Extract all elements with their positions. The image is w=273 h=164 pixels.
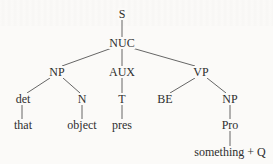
leaf-pres: pres	[111, 119, 133, 131]
node-VP: VP	[192, 66, 209, 78]
edge-NUC-VP	[132, 48, 195, 66]
node-AUX: AUX	[108, 66, 136, 78]
node-T: T	[117, 93, 126, 105]
edge-NP-det	[27, 78, 50, 93]
edge-NP-N	[63, 78, 80, 93]
node-Pro: Pro	[221, 119, 240, 131]
node-NUC: NUC	[108, 37, 135, 49]
node-NP-subject: NP	[48, 66, 65, 78]
tree-edges	[0, 0, 273, 164]
leaf-something-Q: something + Q	[193, 146, 266, 158]
edge-VP-NP	[207, 78, 226, 93]
node-NP-object: NP	[221, 93, 238, 105]
edge-NUC-NP	[62, 48, 112, 66]
node-S: S	[118, 8, 127, 20]
edge-VP-BE	[170, 78, 195, 93]
leaf-that: that	[13, 119, 33, 131]
node-BE: BE	[156, 93, 173, 105]
leaf-object: object	[66, 119, 97, 131]
node-N: N	[77, 93, 88, 105]
node-det: det	[15, 93, 32, 105]
